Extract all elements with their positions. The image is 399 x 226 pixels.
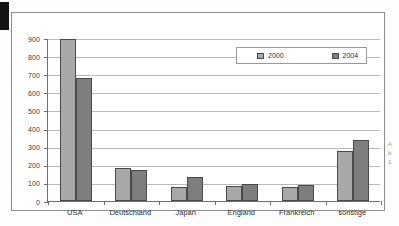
x-axis-category-label: Frankreich [269,209,325,217]
legend-swatch-icon [257,53,264,59]
bar [298,185,314,201]
chart-legend: 20002004 [236,47,367,64]
legend-item-2004[interactable]: 2004 [332,52,359,59]
bar [226,186,242,201]
x-axis-tick [326,201,327,205]
x-axis-tick [104,201,105,205]
x-axis-category-labels: USADeutschlandJapanEnglandFrankreichsons… [47,206,380,220]
x-axis-category-label: Japan [158,209,214,217]
bar-group [171,177,203,201]
legend-item-2000[interactable]: 2000 [257,52,284,59]
y-axis-tick-label: 800 [6,54,40,61]
margin-note-text: Ab1 [388,140,399,167]
y-axis-tick-label: 100 [6,180,40,187]
margin-note-line: A [388,140,399,149]
x-axis-tick [215,201,216,205]
x-axis-tick [159,201,160,205]
x-axis-tick [48,201,49,205]
legend-label: 2004 [343,52,359,59]
bar-group [226,184,258,201]
bar [171,187,187,201]
y-axis-tick-label: 300 [6,144,40,151]
legend-label: 2000 [268,52,284,59]
bar [131,170,147,201]
bar-group [115,168,147,201]
y-axis-tick-label: 500 [6,108,40,115]
bar [76,78,92,201]
bar [115,168,131,201]
bar [60,39,76,201]
bar [282,187,298,201]
bar-group [282,185,314,201]
y-axis-tick-label: 200 [6,162,40,169]
y-axis-tick-label: 400 [6,126,40,133]
y-axis-tick-label: 0 [6,199,40,206]
bar [242,184,258,201]
scanned-page: 0100200300400500600700800900 USADeutschl… [0,0,399,226]
figure-frame: 0100200300400500600700800900 USADeutschl… [11,12,385,211]
scan-edge-artifact [0,2,9,30]
x-axis-category-label: England [214,209,270,217]
x-axis-tick [270,201,271,205]
x-axis-category-label: Deutschland [103,209,159,217]
bar-group [60,39,92,201]
x-axis-tick [381,201,382,205]
bar [187,177,203,201]
bar-group [337,140,369,201]
bar [337,151,353,201]
bar [353,140,369,201]
legend-swatch-icon [332,53,339,59]
margin-note-line: 1 [388,158,399,167]
x-axis-category-label: sonstige [325,209,381,217]
y-axis-tick-label: 700 [6,72,40,79]
x-axis-category-label: USA [47,209,103,217]
y-axis-tick-label: 600 [6,90,40,97]
y-axis-tick-label: 900 [6,36,40,43]
margin-note-line: b [388,149,399,158]
